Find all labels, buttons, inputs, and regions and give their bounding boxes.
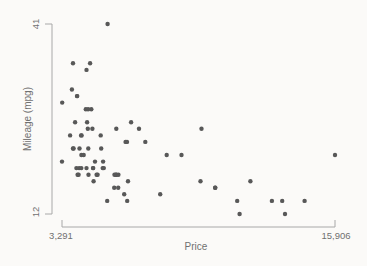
data-point (86, 173, 90, 177)
data-point (179, 153, 183, 157)
data-point (95, 173, 99, 177)
data-point (143, 140, 147, 144)
data-point (105, 199, 109, 203)
data-point (70, 87, 74, 91)
data-point (237, 212, 241, 216)
data-point (88, 61, 92, 65)
data-point (86, 107, 90, 111)
x-axis-max-tick-label: 15,906 (321, 230, 350, 241)
data-point (105, 22, 109, 26)
data-point (99, 133, 103, 137)
scatter-points (60, 22, 337, 216)
data-point (270, 199, 274, 203)
data-point (116, 173, 120, 177)
data-point (126, 179, 130, 183)
data-point (112, 186, 116, 190)
data-point (280, 199, 284, 203)
x-axis-min-tick-label: 3,291 (49, 230, 73, 241)
data-point (122, 192, 126, 196)
data-point (158, 192, 162, 196)
y-axis-title: Mileage (mpg) (22, 87, 33, 151)
data-point (79, 166, 83, 170)
data-point (125, 199, 129, 203)
data-point (333, 153, 337, 157)
data-point (114, 127, 118, 131)
data-point (235, 199, 239, 203)
data-point (76, 173, 80, 177)
data-point (90, 127, 94, 131)
data-point (71, 61, 75, 65)
data-point (84, 166, 88, 170)
data-point (86, 127, 90, 131)
data-point (302, 199, 306, 203)
data-point (116, 186, 120, 190)
data-point (102, 166, 106, 170)
data-point (137, 127, 141, 131)
y-axis-max-tick-label: 41 (30, 19, 41, 30)
data-point (91, 166, 95, 170)
data-point (60, 100, 64, 104)
y-axis (45, 24, 52, 214)
data-point (75, 94, 79, 98)
x-axis-title: Price (185, 241, 208, 252)
data-point (74, 166, 78, 170)
data-point (165, 153, 169, 157)
scatter-plot-canvas: 41 12 Mileage (mpg) 3,291 15,906 Price (0, 0, 367, 266)
data-point (85, 120, 89, 124)
data-point (77, 146, 81, 150)
data-point (199, 127, 203, 131)
data-point (123, 140, 127, 144)
data-point (101, 159, 105, 163)
data-point (213, 186, 217, 190)
x-axis (62, 220, 335, 227)
data-point (248, 179, 252, 183)
mileage-vs-price-scatter-figure: 41 12 Mileage (mpg) 3,291 15,906 Price (0, 0, 367, 266)
data-point (198, 179, 202, 183)
data-point (73, 120, 77, 124)
y-axis-min-tick-label: 12 (30, 207, 41, 218)
data-point (129, 120, 133, 124)
data-point (60, 159, 64, 163)
data-point (112, 173, 116, 177)
data-point (82, 153, 86, 157)
data-point (71, 146, 75, 150)
data-point (86, 146, 90, 150)
data-point (79, 133, 83, 137)
data-point (84, 68, 88, 72)
data-point (283, 212, 287, 216)
data-point (91, 179, 95, 183)
data-point (93, 159, 97, 163)
data-point (68, 133, 72, 137)
data-point (99, 146, 103, 150)
